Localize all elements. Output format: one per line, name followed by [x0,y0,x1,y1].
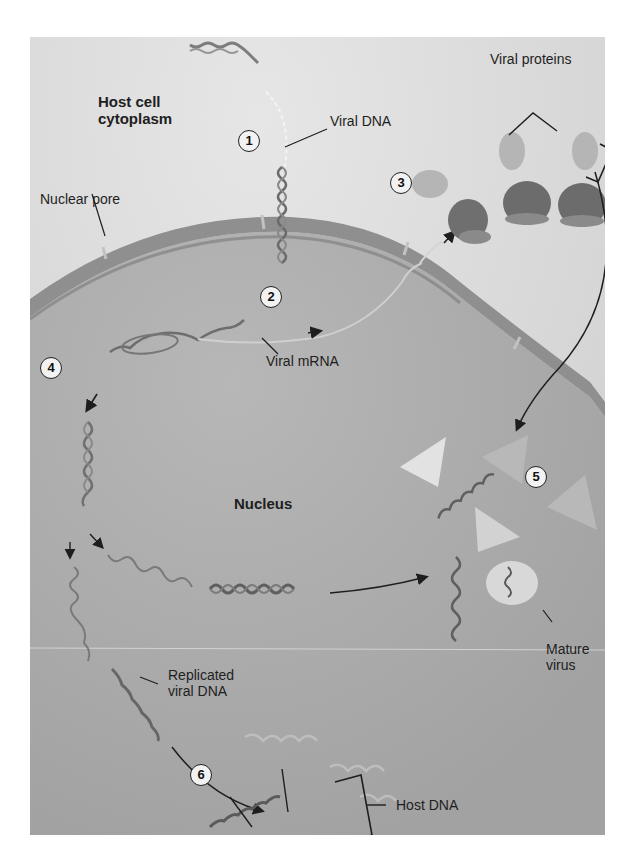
virus-label-line2: virus [546,657,590,673]
viral-mrna-label: Viral mRNA [266,353,339,369]
step-2-marker: 2 [260,286,282,308]
step-1-marker: 1 [238,130,260,152]
mature-label-line1: Mature [546,641,590,657]
viral-dna-label: Viral DNA [330,113,391,129]
replicated-viral-dna-label: Replicated viral DNA [168,667,234,699]
diagram-artwork [30,37,605,835]
step-6-marker: 6 [190,764,212,786]
step-4-marker: 4 [40,357,62,379]
host-cell-label-line1: Host cell [98,93,172,110]
step-3-marker: 3 [390,172,412,194]
cytoplasm-label-line2: cytoplasm [98,110,172,127]
step-5-marker: 5 [525,466,547,488]
viral-replication-diagram: Host cell cytoplasm Viral DNA Nuclear po… [30,37,605,835]
host-cell-cytoplasm-label: Host cell cytoplasm [98,93,172,127]
replicated-label-line1: Replicated [168,667,234,683]
host-dna-label: Host DNA [396,797,458,813]
viral-dna-label-line2: viral DNA [168,683,234,699]
mature-virus-label: Mature virus [546,641,590,673]
viral-proteins-label: Viral proteins [490,51,571,67]
caption-area [0,840,642,860]
nuclear-pore-label: Nuclear pore [40,191,120,207]
mature-virus-capsid [486,561,538,605]
nucleus-label: Nucleus [234,495,292,512]
